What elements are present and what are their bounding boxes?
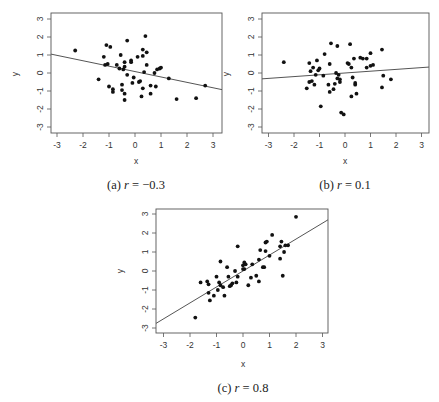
data-point xyxy=(278,244,282,248)
x-tick-label: 3 xyxy=(320,340,325,350)
data-point xyxy=(119,53,123,57)
data-point xyxy=(167,77,171,81)
data-point xyxy=(236,275,240,279)
data-point xyxy=(115,63,119,67)
data-point xyxy=(381,74,385,78)
data-point xyxy=(118,67,122,71)
data-point xyxy=(361,57,365,61)
data-point xyxy=(311,66,315,70)
data-point xyxy=(141,86,145,90)
data-point xyxy=(97,77,101,81)
data-point xyxy=(120,83,124,87)
data-point xyxy=(329,41,333,45)
y-axis-label-c: y xyxy=(115,268,125,273)
data-point xyxy=(129,60,133,64)
x-tick-label: 0 xyxy=(241,340,246,350)
data-point xyxy=(138,79,142,83)
data-point xyxy=(219,260,223,264)
data-point xyxy=(389,77,393,81)
data-point xyxy=(321,74,325,78)
data-point xyxy=(233,269,237,273)
data-point xyxy=(286,243,290,247)
data-point xyxy=(268,254,272,258)
data-point xyxy=(145,50,149,54)
x-tick-label: 3 xyxy=(419,140,424,150)
data-point xyxy=(353,83,357,87)
y-tick-label: 0 xyxy=(35,70,45,75)
y-tick-label: 2 xyxy=(140,230,150,235)
data-point xyxy=(140,95,144,99)
data-point xyxy=(120,88,124,92)
data-point xyxy=(246,283,250,287)
data-point xyxy=(365,57,369,61)
data-point xyxy=(175,97,179,101)
y-axis-label-a: y xyxy=(10,71,20,76)
caption-c: (c) r = 0.8 xyxy=(218,381,269,395)
y-tick-label: 0 xyxy=(246,70,256,75)
data-point xyxy=(123,92,127,96)
data-point xyxy=(193,316,197,320)
data-point xyxy=(231,281,235,285)
data-point xyxy=(234,281,238,285)
x-tick-label: 2 xyxy=(394,140,399,150)
data-point xyxy=(342,113,346,117)
data-point xyxy=(153,71,157,75)
caption-a: (a) r = −0.3 xyxy=(107,178,165,192)
data-point xyxy=(131,81,135,85)
data-point xyxy=(216,288,220,292)
figure-canvas: -3-2-10123-3-2-10123 x y (a) r = −0.3 -3… xyxy=(0,0,439,402)
data-point xyxy=(154,85,158,89)
data-point xyxy=(149,84,153,88)
data-point xyxy=(215,275,219,279)
x-tick-label: -2 xyxy=(79,140,87,150)
data-point xyxy=(208,299,212,303)
data-point xyxy=(111,90,115,94)
data-point xyxy=(380,48,384,52)
data-points-a xyxy=(73,34,207,102)
data-point xyxy=(108,45,112,49)
data-point xyxy=(199,281,203,285)
data-point xyxy=(327,83,331,87)
data-point xyxy=(221,285,225,289)
plot-frame-a xyxy=(51,13,222,133)
data-point xyxy=(123,98,127,102)
x-tick-label: 0 xyxy=(343,140,348,150)
y-tick-label: -3 xyxy=(246,123,256,131)
y-tick-label: -3 xyxy=(140,324,150,332)
x-tick-label: -3 xyxy=(265,140,273,150)
data-point xyxy=(106,62,110,66)
data-point xyxy=(282,60,286,64)
x-axis-label-a: x xyxy=(134,156,139,166)
data-point xyxy=(207,291,211,295)
data-point xyxy=(310,79,314,83)
data-point xyxy=(244,262,248,266)
data-point xyxy=(282,250,286,254)
data-point xyxy=(348,42,352,46)
scatter-panel-c: -3-2-10123-3-2-10123 x y (c) r = 0.8 xyxy=(115,209,328,395)
data-point xyxy=(144,34,148,38)
data-point xyxy=(194,96,198,100)
data-point xyxy=(335,44,339,48)
data-points-c xyxy=(193,215,297,319)
data-point xyxy=(207,282,211,286)
x-tick-label: 1 xyxy=(159,140,164,150)
data-point xyxy=(257,258,261,262)
y-tick-label: 3 xyxy=(35,16,45,21)
data-point xyxy=(125,39,129,43)
data-point xyxy=(249,276,253,280)
y-tick-label: 3 xyxy=(140,211,150,216)
data-point xyxy=(351,76,355,80)
x-tick-label: 2 xyxy=(185,140,190,150)
data-point xyxy=(123,65,127,69)
x-tick-label: 1 xyxy=(368,140,373,150)
data-point xyxy=(142,70,146,74)
data-point xyxy=(278,257,282,261)
x-tick-label: -1 xyxy=(213,340,221,350)
data-point xyxy=(355,92,359,96)
y-axis-label-b: y xyxy=(221,71,231,76)
data-point xyxy=(281,274,285,278)
data-point xyxy=(318,67,322,71)
y-tick-label: -2 xyxy=(246,105,256,113)
x-tick-label: -3 xyxy=(160,340,168,350)
data-point xyxy=(107,85,111,89)
